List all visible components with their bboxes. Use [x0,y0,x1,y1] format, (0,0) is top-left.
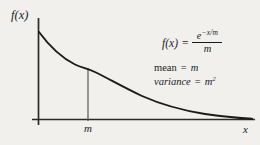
equation-equals-sign: = [182,37,189,49]
fraction-numerator: e−x/m [194,31,221,42]
stat-label-mean: mean [154,62,177,73]
y-axis-label: f(x) [11,9,28,22]
x-axis-label: x [243,124,248,135]
equation-lhs: f(x) [162,37,178,49]
stat-value-mean: m [191,62,199,73]
stat-row-mean: mean = m [154,62,256,73]
distribution-stats-list: mean = m variance = m2 [154,62,256,87]
pdf-equation: f(x) = e−x/m m [162,31,256,55]
fraction-denominator: m [201,43,215,55]
exponential-pdf-figure: f(x) x m f(x) = e−x/m m mean = m varianc… [0,0,260,145]
stat-equals-mean: = [181,62,187,73]
numerator-exponent: −x/m [201,28,218,37]
variance-exponent: 2 [212,74,216,82]
stat-equals-variance: = [195,76,201,87]
stat-row-variance: variance = m2 [154,76,256,87]
formula-annotation-block: f(x) = e−x/m m mean = m variance = m2 [152,31,256,90]
equation-fraction: e−x/m m [192,31,222,55]
x-tick-label-m: m [84,123,92,134]
stat-value-variance: m2 [205,76,216,87]
stat-label-variance: variance [154,76,191,87]
